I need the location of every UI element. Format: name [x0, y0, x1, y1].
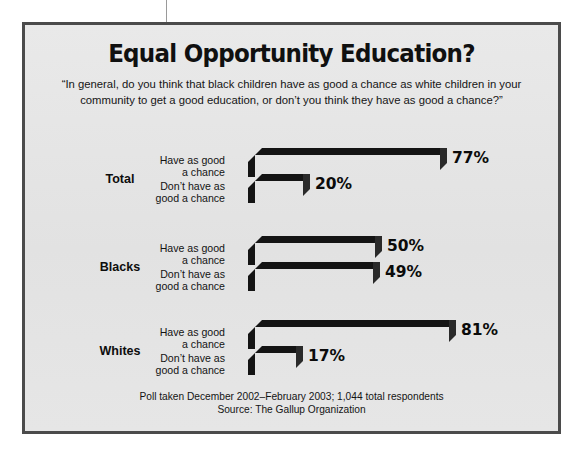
chart-subtitle: “In general, do you think that black chi… [59, 76, 524, 108]
bar-left-face [248, 327, 255, 349]
bar-blacks-donthave [255, 269, 373, 291]
category-label: Have as gooda chance [93, 154, 225, 179]
bar-top-face [255, 346, 303, 353]
bar-top-face [255, 148, 447, 155]
chart-panel: Equal Opportunity Education? “In general… [22, 22, 561, 434]
category-label-line1: Have as good [93, 326, 225, 338]
bar-chart-plot-area: TotalHave as gooda chance77%Don’t have a… [25, 133, 558, 383]
category-label-line1: Have as good [93, 242, 225, 254]
bar-left-face [248, 155, 255, 177]
bar-top-face [255, 262, 380, 269]
footer-poll-note: Poll taken December 2002–February 2003; … [25, 390, 558, 404]
bar-whites-donthave [255, 353, 296, 375]
bar-value-label: 17% [308, 347, 345, 365]
bar-end-face [373, 262, 380, 284]
chart-footer: Poll taken December 2002–February 2003; … [25, 390, 558, 417]
category-label: Don’t have asgood a chance [93, 352, 225, 377]
category-label-line1: Don’t have as [93, 268, 225, 280]
top-divider-rule [166, 0, 167, 23]
bar-left-face [248, 181, 255, 203]
bar-value-label: 77% [452, 149, 489, 167]
bar-left-face [248, 269, 255, 291]
bar-value-label: 49% [385, 263, 422, 281]
category-label-line2: good a chance [93, 364, 225, 376]
category-label-line1: Don’t have as [93, 180, 225, 192]
bar-top-face [255, 236, 382, 243]
bar-end-face [440, 148, 447, 170]
bar-top-face [255, 174, 310, 181]
category-label-line2: a chance [93, 166, 225, 178]
bar-value-label: 20% [315, 175, 352, 193]
category-label-line2: a chance [93, 338, 225, 350]
chart-title: Equal Opportunity Education? [46, 39, 536, 68]
category-label: Don’t have asgood a chance [93, 180, 225, 205]
category-label-line2: good a chance [93, 280, 225, 292]
bar-value-label: 50% [387, 237, 424, 255]
bar-end-face [375, 236, 382, 258]
bar-left-face [248, 353, 255, 375]
category-label-line1: Have as good [93, 154, 225, 166]
bar-end-face [449, 320, 456, 342]
category-label-line1: Don’t have as [93, 352, 225, 364]
category-label: Have as gooda chance [93, 242, 225, 267]
category-label-line2: a chance [93, 254, 225, 266]
bar-left-face [248, 243, 255, 265]
category-label: Have as gooda chance [93, 326, 225, 351]
footer-source: Source: The Gallup Organization [25, 403, 558, 417]
bar-total-donthave [255, 181, 303, 203]
bar-end-face [303, 174, 310, 196]
bar-value-label: 81% [461, 321, 498, 339]
category-label: Don’t have asgood a chance [93, 268, 225, 293]
category-label-line2: good a chance [93, 192, 225, 204]
bar-top-face [255, 320, 456, 327]
bar-end-face [296, 346, 303, 368]
